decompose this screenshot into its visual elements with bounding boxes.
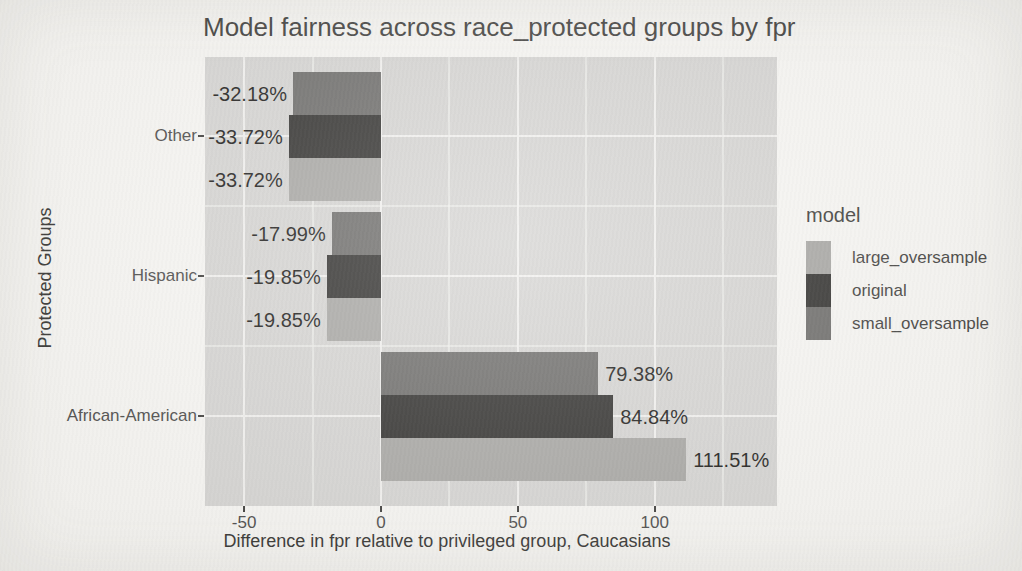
x-tick-label-100: 100 bbox=[641, 513, 669, 533]
bar-value-label-african-american-original: 84.84% bbox=[620, 406, 688, 429]
x-tick-label-50: 50 bbox=[508, 513, 527, 533]
legend-items: large_oversampleoriginalsmall_oversample bbox=[806, 241, 989, 340]
legend-item-original: original bbox=[806, 274, 989, 307]
bar-value-label-other-small-oversample: -32.18% bbox=[212, 83, 287, 106]
legend-item-small-oversample: small_oversample bbox=[806, 307, 989, 340]
legend-label-large-oversample: large_oversample bbox=[852, 248, 987, 268]
legend-title: model bbox=[806, 204, 989, 227]
gridline-major-x--50 bbox=[243, 57, 245, 506]
y-tick-label-other: Other bbox=[154, 126, 197, 146]
legend-item-large-oversample: large_oversample bbox=[806, 241, 989, 274]
bar-hispanic-original bbox=[327, 255, 381, 298]
gridline-minor-y-0 bbox=[205, 205, 777, 207]
chart-root: Model fairness across race_protected gro… bbox=[0, 0, 1022, 571]
bar-value-label-other-original: -33.72% bbox=[208, 126, 283, 149]
bar-african-american-original bbox=[381, 395, 613, 438]
bar-value-label-other-large-oversample: -33.72% bbox=[208, 169, 283, 192]
x-tick-label-0: 0 bbox=[376, 513, 385, 533]
x-tick-mark-100 bbox=[654, 506, 656, 512]
x-tick-mark--50 bbox=[243, 506, 245, 512]
bar-other-small-oversample bbox=[293, 72, 381, 115]
bar-value-label-hispanic-large-oversample: -19.85% bbox=[246, 309, 321, 332]
x-tick-mark-50 bbox=[517, 506, 519, 512]
y-tick-label-hispanic: Hispanic bbox=[132, 266, 197, 286]
legend-key-small-oversample bbox=[806, 307, 831, 340]
legend-key-original bbox=[806, 274, 831, 307]
gridline-minor-y-1 bbox=[205, 345, 777, 347]
y-tick-label-african-american: African-American bbox=[67, 406, 197, 426]
x-axis-title: Difference in fpr relative to privileged… bbox=[224, 531, 671, 552]
legend-label-small-oversample: small_oversample bbox=[852, 314, 989, 334]
gridline-minor-x-125 bbox=[722, 57, 724, 506]
bar-value-label-hispanic-small-oversample: -17.99% bbox=[251, 223, 326, 246]
chart-title: Model fairness across race_protected gro… bbox=[203, 12, 796, 43]
bar-value-label-african-american-small-oversample: 79.38% bbox=[605, 363, 673, 386]
bar-african-american-large-oversample bbox=[381, 438, 686, 481]
bar-value-label-hispanic-original: -19.85% bbox=[246, 266, 321, 289]
bar-hispanic-large-oversample bbox=[327, 298, 381, 341]
y-tick-mark-hispanic bbox=[198, 275, 204, 277]
plot-panel: -32.18%-33.72%-33.72%-17.99%-19.85%-19.8… bbox=[205, 57, 777, 506]
y-tick-mark-other bbox=[198, 135, 204, 137]
x-tick-label--50: -50 bbox=[232, 513, 257, 533]
legend-key-large-oversample bbox=[806, 241, 831, 274]
x-tick-mark-0 bbox=[380, 506, 382, 512]
bar-other-large-oversample bbox=[289, 158, 381, 201]
legend: model large_oversampleoriginalsmall_over… bbox=[806, 204, 989, 340]
bar-other-original bbox=[289, 115, 381, 158]
y-axis: OtherHispanicAfrican-American bbox=[0, 57, 197, 506]
legend-label-original: original bbox=[852, 281, 907, 301]
y-tick-mark-african-american bbox=[198, 415, 204, 417]
bar-african-american-small-oversample bbox=[381, 352, 598, 395]
bar-value-label-african-american-large-oversample: 111.51% bbox=[693, 449, 769, 472]
bar-hispanic-small-oversample bbox=[332, 212, 381, 255]
